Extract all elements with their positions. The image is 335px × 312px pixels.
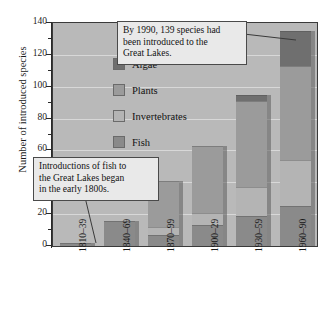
y-tick-label: 80 [13,113,47,123]
x-tick-label: 1960–90 [298,219,308,252]
bar-segment-algae [236,95,267,101]
callout-fish-line1: Introductions of fish to [39,161,153,173]
legend: AlgaePlantsInvertebratesFish [113,51,187,155]
bar-segment-invertebrates [280,160,311,206]
callout-fish-line3: in the early 1800s. [39,184,153,196]
y-tick-label: 120 [13,49,47,59]
legend-swatch-icon [113,84,125,96]
callout-fish: Introductions of fish to the Great Lakes… [33,157,159,201]
legend-swatch-icon [113,136,125,148]
bar-segment-invertebrates [236,187,267,216]
y-tick [46,22,51,23]
bar-segment-plants [236,101,267,187]
y-tick [46,86,51,87]
callout-1990: By 1990, 139 species had been introduced… [117,21,247,65]
bar-segment-algae [280,31,311,66]
y-tick [48,229,51,230]
y-tick [46,245,51,246]
legend-swatch-icon [113,110,125,122]
x-tick-label: 1840–69 [122,219,132,252]
y-tick-label: 60 [13,144,47,154]
legend-label: Invertebrates [132,111,187,122]
legend-label: Plants [132,85,158,96]
callout-1990-line2: been introduced to the [123,37,241,49]
y-tick [46,54,51,55]
bar-shadow [135,221,139,246]
x-tick-label: 1870–99 [166,219,176,252]
bar-segment-plants [192,146,223,213]
x-tick-label: 1930–59 [254,219,264,252]
y-tick [46,118,51,119]
y-tick [46,213,51,214]
legend-item-invertebrates: Invertebrates [113,103,187,129]
bar-shadow [223,146,227,246]
x-tick-label: 1900–29 [210,219,220,252]
callout-fish-line2: the Great Lakes began [39,173,153,185]
bar-shadow [311,31,315,246]
y-tick-label: 100 [13,81,47,91]
y-tick-label: 20 [13,208,47,218]
legend-label: Fish [132,137,150,148]
y-tick [46,149,51,150]
y-tick-label: 0 [13,240,47,250]
legend-item-fish: Fish [113,129,187,155]
bar-shadow [91,243,95,246]
chart-figure: Number of introduced species 02040608010… [0,0,335,312]
callout-1990-line3: Great Lakes. [123,48,241,60]
bar-shadow [179,181,183,246]
y-tick [48,70,51,71]
bar-segment-plants [280,66,311,160]
bar-1960-90 [280,31,311,246]
x-tick-label: 1810–39 [78,219,88,252]
y-tick [48,102,51,103]
y-tick-label: 140 [13,17,47,27]
bar-shadow [267,95,271,246]
y-tick [48,134,51,135]
legend-item-plants: Plants [113,77,187,103]
y-tick [48,38,51,39]
callout-1990-line1: By 1990, 139 species had [123,25,241,37]
gridline [53,214,317,215]
